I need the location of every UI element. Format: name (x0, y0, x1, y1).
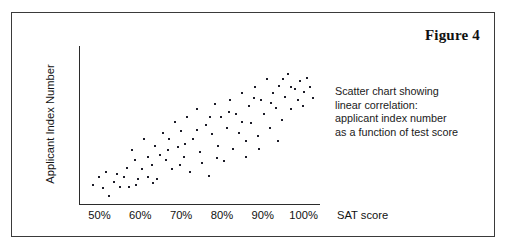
data-point (177, 146, 179, 148)
data-point (116, 173, 118, 175)
data-point (196, 108, 198, 110)
data-point (303, 91, 305, 93)
data-point (105, 171, 107, 173)
data-point (287, 73, 289, 75)
data-point (228, 111, 230, 113)
data-point (220, 116, 222, 118)
data-point (226, 127, 228, 129)
data-point (192, 138, 194, 140)
x-tick-label: 50% (88, 209, 110, 221)
x-tick-label: 90% (252, 209, 274, 221)
data-point (174, 121, 176, 123)
data-point (147, 176, 149, 178)
data-point (154, 145, 156, 147)
data-point (270, 102, 272, 104)
data-point (165, 159, 167, 161)
data-point (302, 105, 304, 107)
y-axis-title: Applicant Index Number (44, 44, 56, 204)
data-point (258, 148, 260, 150)
data-point (306, 77, 308, 79)
data-point (143, 138, 145, 140)
caption-line: applicant index number (335, 112, 500, 126)
data-point (162, 132, 164, 134)
caption-line: linear correlation: (335, 99, 500, 113)
data-point (214, 103, 216, 105)
data-point (269, 127, 271, 129)
data-point (199, 151, 201, 153)
data-point (184, 143, 186, 145)
data-point (248, 105, 250, 107)
caption-line: Scatter chart showing (335, 85, 500, 99)
data-point (98, 176, 100, 178)
x-tick-label: 100% (289, 209, 318, 221)
data-point (282, 78, 284, 80)
data-point (253, 97, 255, 99)
scatter-chart: Applicant Index Number 50%60%70%80%90%10… (12, 13, 342, 238)
data-point (278, 85, 280, 87)
data-point (209, 116, 211, 118)
x-axis-title: SAT score (337, 209, 388, 221)
data-point (208, 175, 210, 177)
data-point (275, 107, 277, 109)
figure-frame: Applicant Index Number 50%60%70%80%90%10… (11, 12, 495, 237)
x-axis-tick-labels: 50%60%70%80%90%100% (79, 209, 320, 227)
data-point (151, 164, 153, 166)
data-point (152, 182, 154, 184)
data-point (135, 184, 137, 186)
data-point (312, 97, 314, 99)
data-point (232, 148, 234, 150)
data-point (186, 116, 188, 118)
data-point (294, 88, 296, 90)
data-point (167, 149, 169, 151)
scatter-plot-area (79, 46, 320, 204)
data-point (245, 156, 247, 158)
data-point (266, 78, 268, 80)
data-point (189, 171, 191, 173)
data-point (254, 86, 256, 88)
data-point (119, 186, 121, 188)
caption-line: as a function of test score (335, 126, 500, 140)
data-point (180, 130, 182, 132)
data-point (102, 187, 104, 189)
data-point (297, 99, 299, 101)
data-point (156, 178, 158, 180)
data-point (223, 160, 225, 162)
data-point (217, 145, 219, 147)
x-tick-label: 60% (129, 209, 151, 221)
data-point (113, 181, 115, 183)
data-point (290, 108, 292, 110)
data-point (171, 168, 173, 170)
data-point (168, 138, 170, 140)
data-point (128, 186, 130, 188)
data-point (216, 157, 218, 159)
data-point (241, 92, 243, 94)
data-point (205, 124, 207, 126)
data-point (284, 96, 286, 98)
data-point (235, 113, 237, 115)
data-point (272, 92, 274, 94)
figure-caption: Scatter chart showinglinear correlation:… (335, 85, 500, 139)
data-point (281, 119, 283, 121)
data-point (290, 86, 292, 88)
data-point (201, 162, 203, 164)
data-point (137, 178, 139, 180)
data-point (141, 168, 143, 170)
data-point (159, 154, 161, 156)
data-point (179, 164, 181, 166)
data-point (238, 132, 240, 134)
data-point (196, 129, 198, 131)
data-point (134, 159, 136, 161)
data-point (250, 122, 252, 124)
data-point (257, 135, 259, 137)
data-point (263, 113, 265, 115)
data-point (183, 156, 185, 158)
x-tick-label: 80% (211, 209, 233, 221)
data-point (241, 121, 243, 123)
x-tick-label: 70% (170, 209, 192, 221)
data-point (123, 176, 125, 178)
data-point (211, 133, 213, 135)
data-point (147, 156, 149, 158)
data-point (108, 195, 110, 197)
data-point (92, 184, 94, 186)
data-point (260, 99, 262, 101)
